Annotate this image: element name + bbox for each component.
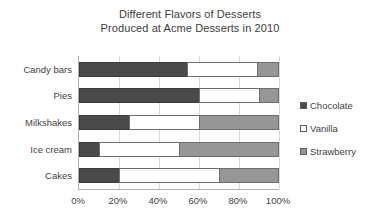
bar-segment-chocolate xyxy=(79,168,119,183)
bar-segment-strawberry xyxy=(259,88,279,103)
bar-segment-chocolate xyxy=(79,88,199,103)
x-tick-label: 60% xyxy=(188,195,207,207)
x-tick-label: 40% xyxy=(148,195,167,207)
x-axis-tick-labels: 0%20%40%60%80%100% xyxy=(78,195,278,211)
gridline xyxy=(279,56,280,189)
bar-segment-strawberry xyxy=(219,168,279,183)
bar-segment-strawberry xyxy=(257,62,279,77)
bar-segment-vanilla xyxy=(187,62,257,77)
x-tick-label: 100% xyxy=(266,195,290,207)
legend-label: Vanilla xyxy=(310,123,338,134)
legend-swatch-icon xyxy=(300,102,307,109)
legend-label: Chocolate xyxy=(310,100,353,111)
chart-title-line-1: Different Flavors of Desserts xyxy=(40,7,340,21)
bar-row xyxy=(79,115,279,130)
bar-row xyxy=(79,88,279,103)
bar-segment-vanilla xyxy=(129,115,199,130)
category-label: Pies xyxy=(0,90,72,101)
bar-segment-strawberry xyxy=(179,142,279,157)
legend-item-strawberry[interactable]: Strawberry xyxy=(300,146,378,157)
x-tick-label: 20% xyxy=(108,195,127,207)
chart-title: Different Flavors of Desserts Produced a… xyxy=(40,7,340,35)
legend-item-vanilla[interactable]: Vanilla xyxy=(300,123,378,134)
category-label: Ice cream xyxy=(0,144,72,155)
legend-swatch-icon xyxy=(300,125,307,132)
bar-row xyxy=(79,168,279,183)
category-label: Milkshakes xyxy=(0,117,72,128)
category-axis-labels: Candy barsPiesMilkshakesIce creamCakes xyxy=(0,56,72,189)
chart-title-line-2: Produced at Acme Desserts in 2010 xyxy=(40,21,340,35)
legend-item-chocolate[interactable]: Chocolate xyxy=(300,100,378,111)
legend-label: Strawberry xyxy=(310,146,356,157)
bar-segment-vanilla xyxy=(119,168,219,183)
bar-row xyxy=(79,62,279,77)
bar-segment-strawberry xyxy=(199,115,279,130)
bar-segment-chocolate xyxy=(79,115,129,130)
bar-segment-vanilla xyxy=(99,142,179,157)
x-tick-label: 0% xyxy=(71,195,85,207)
stacked-bar-chart: Different Flavors of Desserts Produced a… xyxy=(0,0,378,223)
x-tick-label: 80% xyxy=(228,195,247,207)
bar-segment-chocolate xyxy=(79,142,99,157)
plot-area xyxy=(78,56,279,190)
bar-rows xyxy=(79,56,279,189)
category-label: Cakes xyxy=(0,170,72,181)
bar-segment-vanilla xyxy=(199,88,259,103)
category-label: Candy bars xyxy=(0,64,72,75)
bar-row xyxy=(79,142,279,157)
legend-swatch-icon xyxy=(300,148,307,155)
bar-segment-chocolate xyxy=(79,62,187,77)
chart-legend: ChocolateVanillaStrawberry xyxy=(300,100,378,169)
